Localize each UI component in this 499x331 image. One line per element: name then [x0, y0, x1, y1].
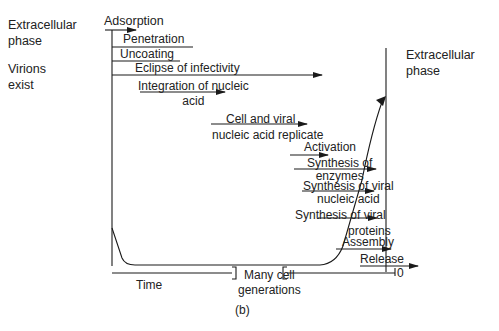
stage-activation: Activation	[304, 141, 356, 154]
stage-eclipse: Eclipse of infectivity	[135, 62, 240, 75]
label-line: nucleic acid	[303, 193, 394, 206]
stage-integration: Integration of nucleic acid	[138, 79, 249, 109]
label-line: Integration of nucleic	[138, 79, 249, 94]
virions-exist-label: Virions exist	[8, 61, 46, 93]
label-line: phase	[406, 63, 475, 79]
stage-release: Release	[360, 253, 404, 266]
label-line: phase	[8, 33, 77, 49]
stage-replicate: Cell and viral nucleic acid replicate	[226, 111, 323, 143]
label-line: Cell and viral	[226, 111, 323, 127]
extracellular-phase-left-label: Extracellular phase	[8, 17, 77, 49]
label-line: Extracellular	[8, 17, 77, 33]
extracellular-phase-right-label: Extracellular phase	[406, 47, 475, 79]
stage-penetration: Penetration	[123, 33, 184, 46]
label-line: Extracellular	[406, 47, 475, 63]
time-axis-label: Time	[136, 279, 162, 292]
stage-synth-nucleic: Synthesis of viral nucleic acid	[303, 180, 394, 206]
axis-break-left	[232, 267, 236, 279]
stage-assembly: Assembly	[342, 236, 394, 249]
label-line: Synthesis of viral	[295, 207, 391, 223]
label-line: Virions	[8, 61, 46, 77]
label-line: acid	[138, 94, 249, 109]
stage-uncoating: Uncoating	[120, 48, 174, 61]
stage-adsorption: Adsorption	[104, 15, 164, 28]
label-line: Many cell	[238, 268, 301, 283]
label-line: generations	[238, 283, 301, 298]
figure-caption: (b)	[235, 304, 250, 317]
label-line: exist	[8, 77, 46, 93]
zero-label: 0	[397, 267, 404, 280]
many-cell-generations-label: Many cell generations	[238, 268, 301, 298]
